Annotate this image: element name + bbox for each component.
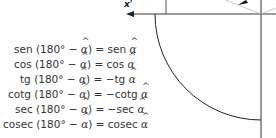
argument: (180° −: [34, 73, 79, 85]
equals: ) =: [86, 73, 102, 85]
argument: (180° −: [36, 43, 81, 55]
equals: ) =: [88, 103, 104, 115]
function-name: cosec: [108, 118, 138, 130]
angle-symbol: α: [141, 117, 148, 132]
equals: ) =: [87, 58, 103, 70]
identity-row: cos (180° − α) = cos α: [14, 57, 135, 72]
angle-symbol: α: [129, 72, 136, 87]
equals: ) =: [88, 118, 104, 130]
radius-line-2: [261, 8, 276, 14]
function-name: cotg: [8, 88, 31, 100]
sign: −: [106, 73, 115, 85]
function-name: tg: [115, 73, 126, 85]
angle-arrow-icon: [238, 0, 248, 5]
function-name: cos: [107, 58, 125, 70]
argument: (180° −: [36, 103, 81, 115]
argument: (180° −: [36, 118, 81, 130]
function-name: cos: [14, 58, 32, 70]
identity-row: sec (180° − α) = −sec α: [15, 102, 145, 117]
function-name: sec: [116, 103, 134, 115]
sign: −: [106, 88, 115, 100]
function-name: tg: [20, 73, 31, 85]
identity-row: cosec (180° − α) = cosec α: [3, 117, 148, 132]
circle-arc: [155, 14, 261, 120]
argument: (180° −: [35, 58, 80, 70]
function-name: sec: [15, 103, 33, 115]
x-prime-label: x': [123, 0, 133, 9]
identity-row: cotg (180° − α) = −cotg α: [8, 87, 148, 102]
x-axis-arrow-icon: [126, 11, 134, 17]
identity-row: tg (180° − α) = −tg α: [20, 72, 136, 87]
function-name: sen: [107, 43, 126, 55]
identity-row: sen (180° − α) = sen α: [14, 42, 137, 57]
function-name: cosec: [3, 118, 33, 130]
function-name: sen: [14, 43, 33, 55]
function-name: cotg: [115, 88, 138, 100]
argument: (180° −: [34, 88, 79, 100]
equals: ) =: [88, 43, 104, 55]
angle-symbol: α: [81, 117, 88, 132]
